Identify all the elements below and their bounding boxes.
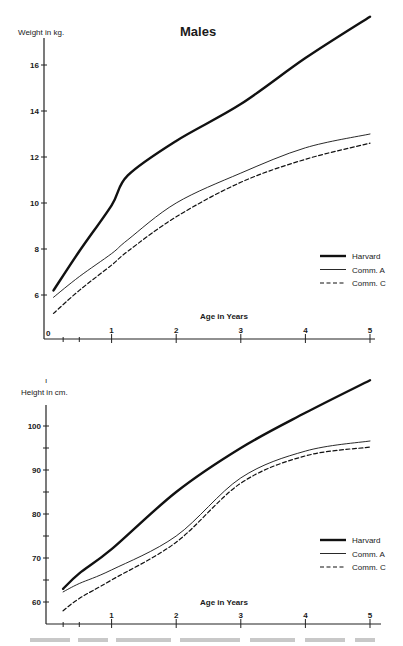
height-series — [63, 380, 370, 611]
x-tick-label: 5 — [368, 611, 373, 620]
weight-x-ticks: 012345 — [46, 326, 373, 343]
y-tick-label: 6 — [35, 291, 40, 300]
y-tick-label: 80 — [32, 510, 41, 519]
chart-title: Males — [180, 24, 216, 39]
y-tick-label: 90 — [32, 466, 41, 475]
series-comm-c — [54, 143, 371, 313]
weight-legend: HarvardComm. AComm. C — [320, 252, 386, 288]
height-x-ticks: 12345 — [63, 611, 373, 628]
x-tick-label: 2 — [174, 611, 179, 620]
height-axis-marker: ı — [45, 376, 47, 385]
cutoff-caption — [30, 638, 375, 642]
legend-label: Comm. C — [352, 563, 386, 572]
y-tick-label: 60 — [32, 598, 41, 607]
series-harvard — [63, 380, 370, 589]
y-tick-label: 14 — [30, 107, 39, 116]
x-tick-label: 2 — [174, 326, 179, 335]
weight-y-axis-label: Weight in kg. — [18, 28, 64, 37]
weight-series — [54, 17, 371, 314]
series-harvard — [54, 17, 371, 291]
x-tick-label: 3 — [239, 326, 244, 335]
weight-chart: Weight in kg. Males 6810121416 012345 Ag… — [18, 17, 386, 343]
y-tick-label: 16 — [30, 61, 39, 70]
x-tick-label: 4 — [303, 326, 308, 335]
y-tick-label: 70 — [32, 554, 41, 563]
height-x-axis-label: Age in Years — [200, 598, 248, 607]
height-y-axis-label: Height in cm. — [21, 388, 68, 397]
x-tick-label: 1 — [109, 326, 114, 335]
y-tick-label: 12 — [30, 153, 39, 162]
x-tick-label: 1 — [109, 611, 114, 620]
legend-label: Harvard — [352, 252, 380, 261]
y-tick-label: 100 — [28, 422, 42, 431]
x-tick-label: 5 — [368, 326, 373, 335]
legend-label: Harvard — [352, 536, 380, 545]
growth-charts: Weight in kg. Males 6810121416 012345 Ag… — [0, 0, 403, 646]
y-tick-label: 8 — [35, 245, 40, 254]
series-comm-c — [63, 447, 370, 611]
x-tick-label: 0 — [46, 329, 51, 338]
weight-x-axis-label: Age in Years — [200, 312, 248, 321]
x-tick-label: 3 — [239, 611, 244, 620]
x-tick-label: 4 — [303, 611, 308, 620]
legend-label: Comm. A — [352, 266, 386, 275]
legend-label: Comm. A — [352, 550, 386, 559]
height-chart: ı Height in cm. 60708090100 12345 Age in… — [21, 376, 386, 628]
y-tick-label: 10 — [30, 199, 39, 208]
height-legend: HarvardComm. AComm. C — [320, 536, 386, 572]
legend-label: Comm. C — [352, 279, 386, 288]
